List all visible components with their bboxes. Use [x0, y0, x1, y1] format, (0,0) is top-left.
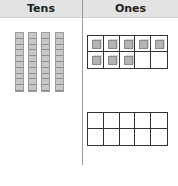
unit-cube	[124, 40, 133, 49]
ten-frame-cell	[151, 36, 167, 52]
ten-frame-cell	[104, 113, 120, 129]
ten-frame-cell	[135, 52, 151, 68]
unit-cube	[139, 40, 148, 49]
unit-cube	[108, 56, 117, 65]
place-value-header: Tens Ones	[0, 0, 178, 18]
unit-cube	[155, 40, 164, 49]
tens-rod	[15, 32, 24, 92]
unit-cube	[92, 56, 101, 65]
ones-header: Ones	[83, 0, 178, 17]
tens-rod	[41, 32, 50, 92]
ten-frame-cell	[151, 113, 167, 129]
ten-frame-cell	[151, 52, 167, 68]
ten-frame-cell	[135, 36, 151, 52]
ten-frame-cell	[88, 129, 104, 145]
ten-frame-cell	[120, 129, 136, 145]
ten-frame-cell	[120, 52, 136, 68]
ten-frame-cell	[120, 36, 136, 52]
ten-frame-cell	[135, 113, 151, 129]
tens-header: Tens	[0, 0, 82, 17]
unit-cube	[124, 56, 133, 65]
ten-frame	[87, 35, 168, 69]
ten-frame-cell	[135, 129, 151, 145]
ten-frame-cell	[88, 113, 104, 129]
ten-frame-cell	[151, 129, 167, 145]
tens-rod	[55, 32, 64, 92]
ten-frame-cell	[88, 52, 104, 68]
ten-frame-cell	[104, 52, 120, 68]
ten-frame-cell	[120, 113, 136, 129]
column-divider	[82, 0, 83, 165]
unit-cube	[92, 40, 101, 49]
ten-frame	[87, 112, 168, 146]
ten-frame-cell	[88, 36, 104, 52]
unit-cube	[108, 40, 117, 49]
ten-frame-cell	[104, 129, 120, 145]
ten-frame-cell	[104, 36, 120, 52]
tens-rod	[28, 32, 37, 92]
